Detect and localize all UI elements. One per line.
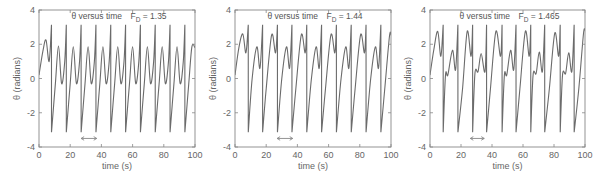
figure: 020406080100-4-2024time (s)θ (radians)θ … [0, 0, 603, 178]
x-tick-label: 100 [383, 150, 398, 160]
y-tick-label: 4 [226, 5, 231, 15]
y-axis-label: θ (radians) [403, 57, 413, 100]
x-tick-label: 80 [549, 150, 559, 160]
x-tick-label: 40 [487, 150, 497, 160]
y-tick-label: -4 [223, 142, 231, 152]
chart-title: θ versus time FD = 1.44 [267, 11, 362, 23]
x-tick-label: 20 [261, 150, 271, 160]
plot-frame [39, 10, 195, 147]
y-tick-label: -2 [418, 108, 426, 118]
x-tick-label: 60 [518, 150, 528, 160]
x-tick-label: 100 [187, 150, 202, 160]
chart-title: θ versus time FD = 1.465 [460, 11, 560, 23]
y-tick-label: 0 [421, 74, 426, 84]
y-tick-label: 4 [30, 5, 35, 15]
x-tick-label: 100 [577, 150, 592, 160]
x-tick-label: 20 [65, 150, 75, 160]
x-tick-label: 80 [355, 150, 365, 160]
x-tick-label: 60 [128, 150, 138, 160]
period-arrow [81, 137, 97, 141]
y-tick-label: 2 [226, 39, 231, 49]
x-axis-label: time (s) [298, 161, 328, 171]
period-arrow [470, 137, 484, 141]
plot-frame [235, 10, 391, 147]
y-axis-label: θ (radians) [208, 57, 218, 100]
y-axis-label: θ (radians) [12, 57, 22, 100]
y-tick-label: 4 [421, 5, 426, 15]
chart-panel-3: 020406080100-4-2024time (s)θ (radians)θ … [403, 5, 593, 171]
x-tick-label: 20 [456, 150, 466, 160]
x-tick-label: 0 [427, 150, 432, 160]
y-tick-label: -4 [418, 142, 426, 152]
y-tick-label: 0 [30, 74, 35, 84]
y-tick-label: 0 [226, 74, 231, 84]
y-tick-label: 2 [30, 39, 35, 49]
chart-title: θ versus time FD = 1.35 [71, 11, 166, 23]
period-arrow [277, 137, 293, 141]
theta-curve [430, 25, 585, 133]
theta-curve [39, 25, 195, 133]
x-tick-label: 80 [159, 150, 169, 160]
chart-panel-2: 020406080100-4-2024time (s)θ (radians)θ … [208, 5, 399, 171]
theta-curve [235, 25, 391, 133]
x-tick-label: 60 [324, 150, 334, 160]
x-axis-label: time (s) [493, 161, 523, 171]
y-tick-label: 2 [421, 39, 426, 49]
x-tick-label: 40 [292, 150, 302, 160]
x-tick-label: 0 [232, 150, 237, 160]
chart-panel-1: 020406080100-4-2024time (s)θ (radians)θ … [12, 5, 203, 171]
x-axis-label: time (s) [102, 161, 132, 171]
y-tick-label: -2 [27, 108, 35, 118]
y-tick-label: -4 [27, 142, 35, 152]
x-tick-label: 0 [36, 150, 41, 160]
y-tick-label: -2 [223, 108, 231, 118]
x-tick-label: 40 [96, 150, 106, 160]
